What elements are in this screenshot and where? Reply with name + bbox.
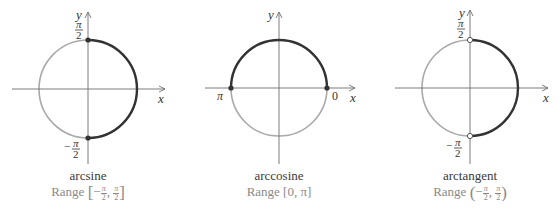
- closed-endpoint-top: [85, 37, 90, 42]
- function-name: arcsine: [8, 168, 168, 183]
- caption-arccosine: arccosine Range [0, π]: [199, 168, 359, 201]
- range-lower-sign: −: [475, 184, 482, 199]
- range-prefix: Range: [51, 184, 84, 199]
- zero-label: 0: [332, 89, 338, 103]
- x-axis-label: x: [542, 90, 549, 105]
- open-endpoint-top: [467, 37, 472, 42]
- pi-label: π: [217, 89, 224, 103]
- range-separator: ,: [489, 184, 492, 199]
- closed-endpoint-left: [228, 85, 233, 90]
- bottom-label-sign: −: [446, 139, 452, 151]
- bottom-label-denominator: 2: [73, 148, 79, 160]
- bottom-label-sign: −: [64, 140, 70, 152]
- top-label-denominator: 2: [458, 28, 464, 40]
- range-lower-sign: −: [93, 184, 100, 199]
- range-separator: ,: [107, 184, 110, 199]
- range-prefix: Range: [433, 184, 466, 199]
- range-expression: Range [0, π]: [199, 183, 359, 201]
- x-axis-label: x: [349, 90, 356, 105]
- open-endpoint-bottom: [467, 133, 472, 138]
- range-close-paren: ): [501, 183, 507, 202]
- panel-arctangent: y x π 2 − π 2: [395, 5, 549, 164]
- function-name: arctangent: [390, 168, 550, 183]
- bottom-label-denominator: 2: [455, 147, 461, 159]
- y-axis-label: y: [266, 7, 274, 22]
- function-name: arccosine: [199, 168, 359, 183]
- panel-arccosine: y x π 0: [205, 7, 356, 164]
- caption-arcsine: arcsine Range [−π2, π2]: [8, 168, 168, 202]
- panel-arcsine: y x π 2 − π 2: [12, 7, 165, 164]
- top-label-denominator: 2: [76, 29, 82, 41]
- range-close-bracket: ]: [119, 183, 125, 202]
- range-expression: Range (−π2, π2): [390, 183, 550, 202]
- caption-arctangent: arctangent Range (−π2, π2): [390, 168, 550, 202]
- closed-endpoint-bottom: [85, 135, 90, 140]
- closed-endpoint-right: [324, 85, 329, 90]
- x-axis-label: x: [157, 91, 164, 106]
- range-expression: Range [−π2, π2]: [8, 183, 168, 202]
